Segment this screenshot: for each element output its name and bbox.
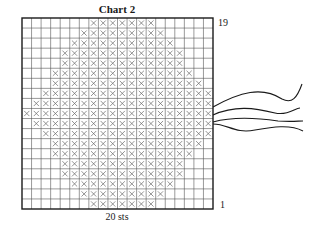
x-stitch-icon: [167, 111, 172, 116]
x-stitch-icon: [129, 20, 134, 25]
x-stitch-icon: [177, 51, 182, 56]
x-stitch-icon: [158, 61, 163, 66]
x-stitch-icon: [167, 121, 172, 126]
x-stitch-icon: [139, 171, 144, 176]
x-stitch-icon: [72, 71, 77, 76]
x-stitch-icon: [177, 161, 182, 166]
x-stitch-icon: [129, 161, 134, 166]
x-stitch-icon: [196, 111, 201, 116]
x-stitch-icon: [110, 121, 115, 126]
x-stitch-icon: [206, 91, 211, 96]
x-stitch-icon: [81, 181, 86, 186]
row-label-bottom: 1: [220, 199, 225, 210]
x-stitch-icon: [158, 131, 163, 136]
x-stitch-icon: [139, 81, 144, 86]
x-stitch-icon: [177, 101, 182, 106]
x-stitch-icon: [101, 171, 106, 176]
x-stitch-icon: [158, 111, 163, 116]
x-stitch-icon: [62, 111, 67, 116]
x-stitch-icon: [139, 61, 144, 66]
x-stitch-icon: [110, 81, 115, 86]
x-stitch-icon: [72, 81, 77, 86]
x-stitch-icon: [101, 201, 106, 206]
x-stitch-icon: [72, 51, 77, 56]
x-stitch-icon: [81, 151, 86, 156]
x-stitch-icon: [139, 30, 144, 35]
x-stitch-icon: [167, 161, 172, 166]
x-stitch-icon: [53, 91, 58, 96]
x-stitch-icon: [101, 81, 106, 86]
x-stitch-icon: [72, 181, 77, 186]
x-stitch-icon: [81, 141, 86, 146]
x-stitch-icon: [91, 61, 96, 66]
x-stitch-icon: [110, 61, 115, 66]
x-stitch-icon: [129, 191, 134, 196]
stitch-chart-grid: [0, 0, 318, 228]
x-stitch-icon: [177, 151, 182, 156]
x-stitch-icon: [129, 111, 134, 116]
x-stitch-icon: [81, 91, 86, 96]
x-stitch-icon: [148, 151, 153, 156]
x-stitch-icon: [53, 101, 58, 106]
x-stitch-icon: [91, 171, 96, 176]
x-stitch-icon: [62, 161, 67, 166]
x-stitch-icon: [91, 30, 96, 35]
x-stitch-icon: [158, 151, 163, 156]
x-stitch-icon: [110, 191, 115, 196]
x-stitch-icon: [167, 51, 172, 56]
x-stitch-icon: [167, 131, 172, 136]
x-stitch-icon: [91, 51, 96, 56]
x-stitch-icon: [110, 161, 115, 166]
x-stitch-icon: [167, 61, 172, 66]
x-stitch-icon: [139, 151, 144, 156]
x-stitch-icon: [196, 141, 201, 146]
x-stitch-icon: [129, 81, 134, 86]
x-stitch-icon: [53, 111, 58, 116]
x-stitch-icon: [110, 101, 115, 106]
x-stitch-icon: [120, 161, 125, 166]
x-stitch-icon: [177, 171, 182, 176]
x-stitch-icon: [101, 51, 106, 56]
x-stitch-icon: [43, 101, 48, 106]
x-stitch-icon: [101, 61, 106, 66]
x-stitch-icon: [177, 71, 182, 76]
x-stitch-icon: [139, 101, 144, 106]
x-stitch-icon: [72, 161, 77, 166]
yarn-strands: [213, 84, 303, 131]
x-stitch-icon: [101, 111, 106, 116]
x-stitch-icon: [101, 141, 106, 146]
x-stitch-icon: [91, 181, 96, 186]
x-stitch-icon: [62, 61, 67, 66]
x-stitch-icon: [177, 81, 182, 86]
x-stitch-icon: [148, 131, 153, 136]
x-stitch-icon: [148, 201, 153, 206]
x-stitch-icon: [120, 81, 125, 86]
x-stitch-icon: [196, 81, 201, 86]
x-stitch-icon: [148, 30, 153, 35]
x-stitch-icon: [120, 91, 125, 96]
x-stitch-icon: [110, 171, 115, 176]
x-stitch-icon: [139, 51, 144, 56]
x-stitch-icon: [72, 111, 77, 116]
x-stitch-icon: [120, 141, 125, 146]
x-stitch-icon: [53, 71, 58, 76]
x-stitch-icon: [24, 111, 29, 116]
x-stitch-icon: [34, 111, 39, 116]
x-stitch-icon: [167, 91, 172, 96]
x-stitch-icon: [101, 151, 106, 156]
x-stitch-icon: [91, 201, 96, 206]
x-stitch-icon: [148, 91, 153, 96]
x-stitch-icon: [139, 161, 144, 166]
x-stitch-icon: [62, 141, 67, 146]
x-stitch-icon: [53, 151, 58, 156]
x-stitch-icon: [148, 181, 153, 186]
x-stitch-icon: [53, 121, 58, 126]
x-stitch-icon: [129, 41, 134, 46]
yarn-strand: [213, 108, 300, 115]
x-stitch-icon: [110, 30, 115, 35]
x-stitch-icon: [120, 30, 125, 35]
x-stitch-icon: [110, 41, 115, 46]
x-stitch-icon: [167, 181, 172, 186]
x-stitch-icon: [62, 51, 67, 56]
yarn-strand: [213, 124, 303, 131]
